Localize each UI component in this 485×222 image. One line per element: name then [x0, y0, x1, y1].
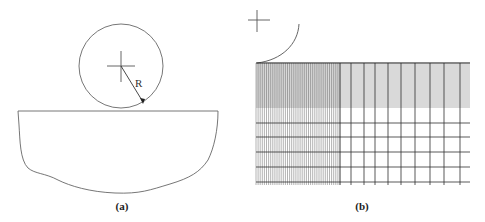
panel-a: [18, 24, 218, 193]
finite-element-mesh: [256, 63, 470, 185]
figure-canvas: [0, 0, 485, 222]
figure: R (a) (b): [0, 0, 485, 222]
panel-b: [248, 10, 470, 185]
radius-label: R: [135, 77, 142, 89]
caption-b: (b): [355, 200, 368, 212]
workpiece-outline: [18, 111, 218, 193]
roller-center-crosshair-icon: [248, 10, 270, 32]
caption-a: (a): [116, 200, 129, 212]
roller-arc: [257, 24, 299, 63]
